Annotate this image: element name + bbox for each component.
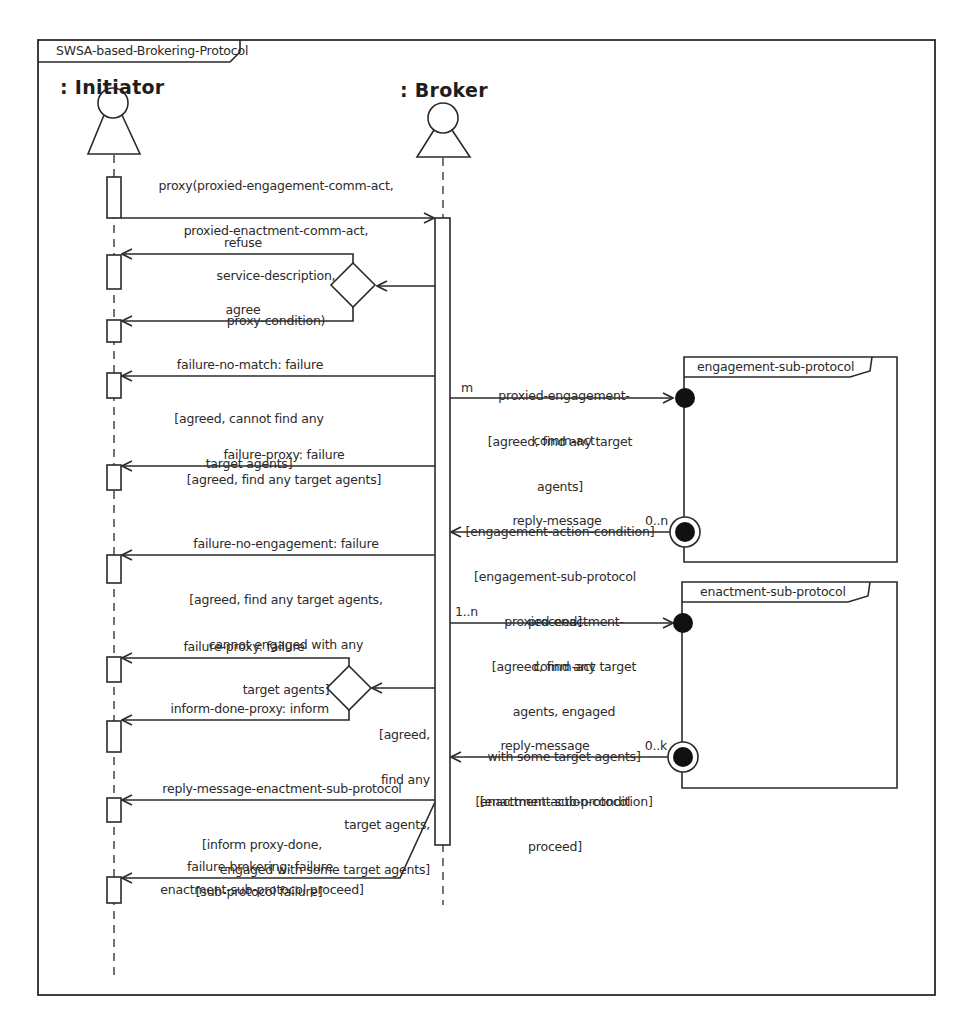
guard-line: agents]: [466, 479, 655, 494]
guard-line: target agents]: [189, 682, 382, 697]
guard-line: [agreed, find any target: [466, 434, 655, 449]
agree-label: agree: [226, 302, 261, 317]
broker-name: : Broker: [400, 79, 488, 101]
failure-no-match-label: failure-no-match: failure: [177, 357, 324, 372]
guard-line: [agreed, cannot find any: [174, 411, 323, 426]
failure-brokering-guard: [sub-protocol failure]: [196, 884, 323, 899]
guard-line: [agreed, find any target agents,: [189, 592, 382, 607]
initiator-name: : Initiator: [60, 76, 165, 98]
enactment-sub-protocol-frame: [682, 582, 897, 788]
label-line: proxied-enactment-: [504, 614, 624, 629]
reply-enactment-multiplicity: 0..k: [645, 738, 667, 753]
proxy-label-line: service-description,: [159, 268, 394, 283]
proxy-label-line: proxy-condition): [159, 313, 394, 328]
failure-no-engagement-label: failure-no-engagement: failure: [193, 536, 379, 551]
enactment-sub-protocol-title: enactment-sub-protocol: [700, 584, 846, 599]
refuse-label: refuse: [224, 235, 262, 250]
guard-line: [agreed,: [220, 727, 430, 742]
reply-enactment-guard: [enactment-sub-protocol proceed]: [480, 764, 630, 884]
label-line: proxied-engagement-: [498, 388, 629, 403]
engagement-multiplicity: m: [461, 380, 473, 395]
proxy-label-line: proxied-enactment-comm-act,: [159, 223, 394, 238]
engagement-final-node-icon: [670, 517, 700, 547]
proxy-label-line: proxy(proxied-engagement-comm-act,: [159, 178, 394, 193]
reply-engagement-label: reply-message: [512, 513, 601, 528]
engagement-sub-protocol-frame: [684, 357, 897, 562]
guard-line: agents, engaged: [475, 704, 652, 719]
reply-enactment-label: reply-message: [500, 738, 589, 753]
proxy-label: proxy(proxied-engagement-comm-act, proxi…: [159, 148, 394, 358]
enactment-final-node-icon: [668, 742, 698, 772]
diagram-title: SWSA-based-Brokering-Protocol: [56, 43, 248, 58]
failure-proxy-1-guard: [agreed, find any target agents]: [187, 472, 381, 487]
guard-line: proceed]: [480, 839, 630, 854]
sequence-diagram: SWSA-based-Brokering-Protocol : Initiato…: [0, 0, 962, 1030]
guard-line: [enactment-sub-protocol: [480, 794, 630, 809]
guard-line: [inform proxy-done,: [160, 837, 363, 852]
enactment-multiplicity: 1..n: [455, 604, 478, 619]
broker-actor-icon: [417, 103, 470, 157]
engagement-sub-protocol-title: engagement-sub-protocol: [697, 359, 854, 374]
guard-line: [engagement-sub-protocol: [474, 569, 636, 584]
failure-proxy-1-label: failure-proxy: failure: [223, 447, 344, 462]
failure-proxy-2-label: failure-proxy: failure: [183, 639, 304, 654]
reply-engagement-multiplicity: 0..n: [645, 513, 668, 528]
broker-activation: [435, 218, 450, 845]
enactment-initial-node-icon: [673, 613, 693, 633]
failure-brokering-label: failure-brokering: failure: [187, 859, 333, 874]
reply-message-enactment-label: reply-message-enactment-sub-protocol: [162, 781, 401, 796]
engagement-initial-node-icon: [675, 388, 695, 408]
guard-line: [agreed, find any target: [475, 659, 652, 674]
